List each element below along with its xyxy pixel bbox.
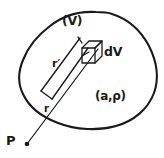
volume-region-label: (V) <box>62 15 82 28</box>
distance-vector-label: r <box>44 104 49 114</box>
source-vector-strip-cap <box>41 91 52 99</box>
field-point-label: P <box>6 134 16 147</box>
volume-boundary-outline <box>19 12 156 129</box>
volume-element-label: dV <box>104 46 122 59</box>
field-point-p-dot <box>25 142 30 147</box>
source-vector-strip-edge-upper <box>41 38 80 91</box>
physics-diagram: (V) dV (a,ρ) P r′ r <box>0 0 164 158</box>
material-properties-label: (a,ρ) <box>95 90 126 102</box>
source-vector-label: r′ <box>52 58 60 69</box>
